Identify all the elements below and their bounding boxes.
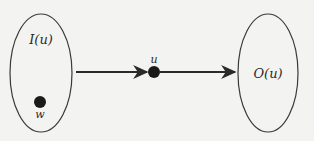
node-u-label: u — [150, 53, 157, 66]
in-out-neighborhood-diagram: I(u) O(u) u w — [0, 0, 314, 141]
node-w: w — [34, 96, 46, 121]
node-u-dot — [148, 66, 160, 78]
node-w-label: w — [35, 108, 45, 121]
node-w-dot — [34, 96, 46, 108]
out-neighborhood-label: O(u) — [253, 66, 282, 81]
in-neighborhood-label: I(u) — [28, 32, 53, 47]
out-neighborhood-set: O(u) — [238, 14, 298, 132]
node-u: u — [148, 53, 160, 78]
